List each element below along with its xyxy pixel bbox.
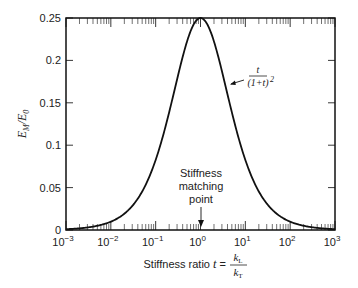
svg-text:t: t	[257, 64, 260, 75]
svg-text:point: point	[189, 193, 213, 205]
arrow-down-icon	[198, 220, 204, 227]
svg-text:2: 2	[270, 75, 274, 84]
svg-text:10−3: 10−3	[52, 234, 74, 248]
svg-text:kL: kL	[233, 251, 242, 265]
svg-text:Stiffness: Stiffness	[180, 167, 222, 179]
svg-text:10−1: 10−1	[142, 234, 164, 248]
svg-text:10−2: 10−2	[97, 234, 119, 248]
svg-text:0.25: 0.25	[40, 12, 61, 24]
svg-text:(1+t): (1+t)	[247, 77, 269, 89]
stiffness-matching-point-annotation: Stiffness matching point	[179, 167, 224, 227]
svg-text:kT: kT	[233, 266, 243, 280]
svg-text:101: 101	[234, 234, 251, 248]
curve-formula-annotation: t (1+t) 2	[230, 64, 274, 89]
x-tick-labels: 10−310−210−1100101102103	[52, 234, 341, 248]
svg-text:0.05: 0.05	[40, 182, 61, 194]
svg-text:0: 0	[55, 224, 61, 236]
svg-text:Stiffness ratio t =: Stiffness ratio t =	[144, 257, 226, 271]
y-tick-labels: 00.050.10.150.20.25	[40, 12, 61, 236]
svg-text:0.15: 0.15	[40, 97, 61, 109]
y-axis-label: EM/E0	[15, 110, 31, 140]
arrow-left-icon	[230, 81, 236, 86]
svg-text:103: 103	[324, 234, 341, 248]
svg-text:0.1: 0.1	[46, 139, 61, 151]
svg-text:matching: matching	[179, 180, 224, 192]
svg-text:102: 102	[279, 234, 296, 248]
svg-text:0.2: 0.2	[46, 54, 61, 66]
svg-text:100: 100	[189, 234, 206, 248]
stiffness-ratio-chart: 00.050.10.150.20.25 10−310−210−110010110…	[0, 0, 358, 288]
x-axis-label: Stiffness ratio t = kL kT	[144, 251, 247, 280]
